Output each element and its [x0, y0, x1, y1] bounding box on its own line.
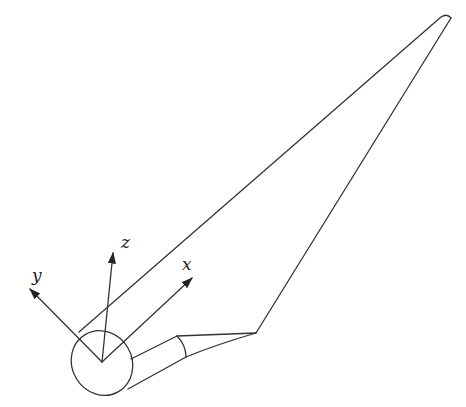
transition-lower — [186, 333, 256, 357]
trailing-edge — [256, 18, 451, 333]
cylinder-upper — [131, 336, 177, 359]
y-axis-label: y — [31, 265, 42, 285]
leading-edge — [79, 15, 451, 332]
coordinate-axes: x y z — [30, 232, 192, 362]
x-axis-label: x — [182, 254, 192, 274]
x-axis-arrow — [102, 278, 192, 362]
transition-arc — [177, 336, 186, 357]
blade-diagram: x y z — [0, 0, 466, 407]
y-axis-arrow — [30, 289, 102, 362]
z-axis-label: z — [120, 232, 131, 252]
cylinder-lower — [128, 357, 186, 389]
blade-outline — [60, 15, 451, 406]
z-axis-arrow — [102, 253, 113, 362]
transition-upper — [177, 333, 256, 336]
